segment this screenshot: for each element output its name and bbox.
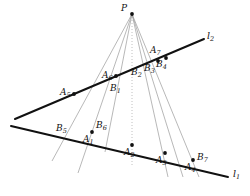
point-label-B3: B3	[144, 64, 155, 73]
point-label-sub: 1	[90, 138, 94, 146]
line-label-l2: l2	[207, 31, 214, 41]
point-label-base: B	[96, 120, 103, 130]
point-label-A5: A5	[60, 88, 71, 97]
lines-group	[11, 39, 228, 177]
point-label-sub: 1	[117, 87, 121, 95]
point-label-base: A	[185, 162, 192, 172]
point-label-B5: B5	[56, 124, 67, 133]
point-label-base: A	[83, 134, 90, 144]
ray-P-A4	[132, 14, 183, 177]
point-label-sub: 2	[131, 151, 135, 159]
point-label-base: B	[110, 83, 117, 93]
A5-dot	[72, 92, 76, 96]
point-label-sub: 5	[67, 91, 71, 99]
point-label-base: A	[150, 45, 157, 55]
point-label-base: A	[124, 147, 131, 157]
point-label-sub: 2	[138, 71, 142, 79]
point-label-base: B	[197, 152, 204, 162]
point-label-base: A	[60, 87, 67, 97]
A1-dot	[90, 130, 94, 134]
point-label-sub: 7	[157, 49, 161, 57]
point-label-sub: 3	[151, 67, 155, 75]
point-label-A4: A4	[185, 163, 196, 172]
point-label-B7: B7	[197, 153, 208, 162]
point-label-B6: B6	[96, 121, 107, 130]
line-label-sub: 1	[236, 173, 240, 181]
point-label-sub: 6	[103, 124, 107, 132]
point-label-A7: A7	[150, 46, 161, 55]
point-label-P: P	[121, 4, 127, 13]
line-label-sub: 2	[210, 35, 214, 43]
point-label-B2: B2	[131, 68, 142, 77]
point-label-A2: A2	[124, 148, 135, 157]
point-label-B1: B1	[110, 84, 121, 93]
point-label-sub: 6	[109, 74, 113, 82]
point-label-A6: A6	[102, 71, 113, 80]
point-label-base: B	[144, 63, 151, 73]
point-label-A1: A1	[83, 135, 94, 144]
figure-canvas	[0, 0, 250, 196]
point-label-A3: A3	[156, 156, 167, 165]
P-dot	[130, 12, 134, 16]
point-label-sub: 4	[192, 166, 196, 174]
point-label-sub: 4	[163, 63, 167, 71]
line-label-l1: l1	[233, 169, 240, 179]
point-label-sub: 5	[63, 127, 67, 135]
point-label-base: B	[131, 67, 138, 77]
A6B1-dot	[114, 74, 118, 78]
point-label-sub: 3	[163, 159, 167, 167]
point-label-base: A	[156, 155, 163, 165]
A3-dot	[163, 151, 167, 155]
point-label-base: A	[102, 70, 109, 80]
point-label-base: B	[56, 123, 63, 133]
geometry-figure: l1l2PA1A2A3A4A5A6A7B1B2B3B4B5B6B7	[0, 0, 250, 196]
point-label-sub: 7	[204, 156, 208, 164]
ray-P-A3	[132, 14, 168, 177]
point-label-B4: B4	[156, 60, 167, 69]
point-label-base: B	[156, 59, 163, 69]
